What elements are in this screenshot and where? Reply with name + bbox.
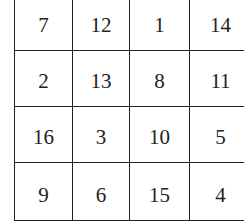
grid-cell: 6	[73, 163, 130, 221]
grid-cell: 11	[190, 51, 244, 107]
grid-cell: 12	[73, 0, 130, 51]
grid-cell: 1	[130, 0, 190, 51]
grid-cell: 16	[15, 107, 73, 163]
grid-cell: 5	[190, 107, 244, 163]
grid-cell: 4	[190, 163, 244, 221]
grid-cell: 7	[15, 0, 73, 51]
grid-cell: 14	[190, 0, 244, 51]
grid-cell: 9	[15, 163, 73, 221]
grid-cell: 15	[130, 163, 190, 221]
grid-cell: 13	[73, 51, 130, 107]
grid-cell: 10	[130, 107, 190, 163]
grid-cell: 2	[15, 51, 73, 107]
number-grid: 7 12 1 14 2 13 8 11 16 3 10 5 9 6 15 4	[14, 0, 244, 221]
grid-cell: 3	[73, 107, 130, 163]
grid-cell: 8	[130, 51, 190, 107]
